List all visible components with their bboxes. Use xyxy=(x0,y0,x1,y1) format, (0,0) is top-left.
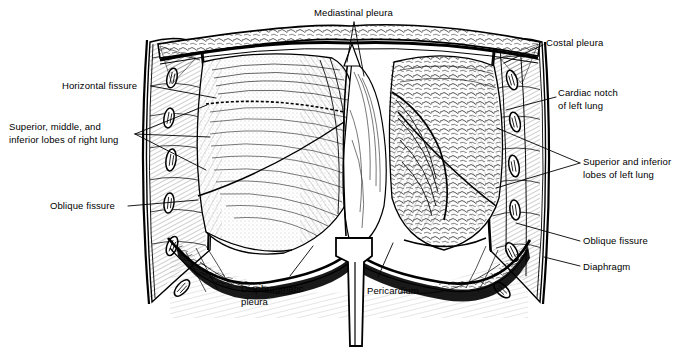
label-pericardium: Pericardium xyxy=(367,285,419,298)
label-line-1: Superior, middle, and xyxy=(9,121,101,132)
label-lobes-of-left-lung: Superior and inferiorlobes of left lung xyxy=(583,156,671,181)
label-horizontal-fissure: Horizontal fissure xyxy=(62,80,137,93)
label-line-2: pleura xyxy=(241,296,268,307)
figure-canvas: Mediastinal pleura Costal pleura Cardiac… xyxy=(0,0,685,350)
label-cardiac-notch-of-left-lung: Cardiac notchof left lung xyxy=(558,87,618,112)
label-line-1: Cardiac notch xyxy=(558,87,618,98)
label-oblique-fissure-left-side: Oblique fissure xyxy=(50,200,115,213)
leader-diaphragm xyxy=(544,257,580,266)
label-line-1: Diaphragmatic xyxy=(241,283,304,294)
label-line-2: inferior lobes of right lung xyxy=(9,134,118,145)
label-oblique-fissure-right-side: Oblique fissure xyxy=(583,235,648,248)
label-diaphragmatic-pleura: Diaphragmaticpleura xyxy=(241,283,304,308)
label-costal-pleura: Costal pleura xyxy=(546,37,603,50)
label-line-2: lobes of left lung xyxy=(583,169,654,180)
mediastinum xyxy=(343,44,386,250)
label-line-1: Superior and inferior xyxy=(583,156,671,167)
leader-pericardium xyxy=(378,243,393,277)
label-line-2: of left lung xyxy=(558,100,603,111)
label-mediastinal-pleura: Mediastinal pleura xyxy=(314,7,393,20)
mediastinal-pleura-reflection xyxy=(344,44,360,66)
label-diaphragm: Diaphragm xyxy=(583,261,630,274)
label-lobes-of-right-lung: Superior, middle, andinferior lobes of r… xyxy=(9,121,118,146)
